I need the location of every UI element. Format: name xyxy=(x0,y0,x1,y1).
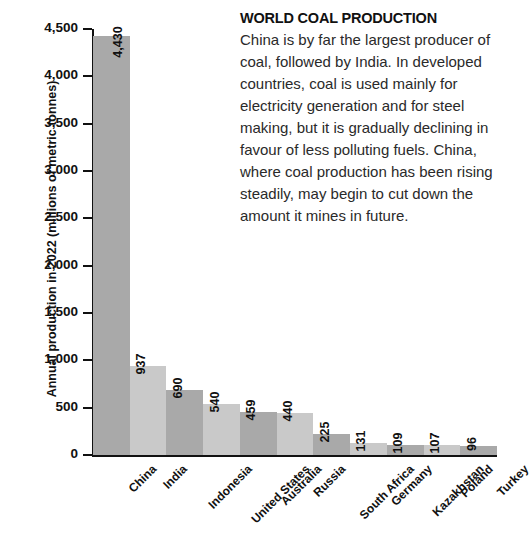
y-tick-label: 500 xyxy=(55,399,78,414)
y-tick-label: 0 xyxy=(70,446,78,461)
y-tick-mark xyxy=(83,170,92,172)
bar-indonesia[interactable]: 690 xyxy=(166,390,203,455)
bar-india[interactable]: 937 xyxy=(130,366,167,455)
y-tick-mark xyxy=(83,359,92,361)
bar-south-africa[interactable]: 225 xyxy=(313,434,350,455)
panel-body: China is by far the largest producer of … xyxy=(240,29,502,227)
y-tick-label: 2,500 xyxy=(44,209,78,224)
y-tick-mark xyxy=(83,312,92,314)
y-axis-title: Annual production in 2022 (millions of m… xyxy=(45,19,59,459)
y-tick-label: 2,000 xyxy=(44,257,78,272)
text-panel: WORLD COAL PRODUCTION China is by far th… xyxy=(240,10,502,227)
bar-value-label: 459 xyxy=(244,399,258,420)
bar-value-label: 96 xyxy=(465,437,479,451)
bar-russia[interactable]: 440 xyxy=(277,413,314,455)
x-label-china: China xyxy=(126,462,159,495)
y-tick-mark xyxy=(83,75,92,77)
y-tick-mark xyxy=(83,123,92,125)
x-label-turkey: Turkey xyxy=(494,462,531,499)
bar-china[interactable]: 4,430 xyxy=(93,36,130,455)
y-tick-label: 3,500 xyxy=(44,115,78,130)
y-tick-label: 1,500 xyxy=(44,304,78,319)
bar-poland[interactable]: 107 xyxy=(424,445,461,455)
bar-kazakhstan[interactable]: 109 xyxy=(387,445,424,455)
bar-value-label: 225 xyxy=(318,421,332,442)
y-tick-label: 1,000 xyxy=(44,351,78,366)
bar-value-label: 4,430 xyxy=(111,26,125,57)
bar-turkey[interactable]: 96 xyxy=(460,446,497,455)
y-tick-mark xyxy=(83,217,92,219)
bar-value-label: 540 xyxy=(208,391,222,412)
bar-value-label: 690 xyxy=(171,377,185,398)
x-label-indonesia: Indonesia xyxy=(206,462,256,512)
y-tick-label: 4,500 xyxy=(44,20,78,35)
y-tick-mark xyxy=(83,28,92,30)
y-tick-label: 3,000 xyxy=(44,162,78,177)
panel-title: WORLD COAL PRODUCTION xyxy=(240,10,502,26)
y-tick-mark xyxy=(83,265,92,267)
bar-united-states[interactable]: 540 xyxy=(203,404,240,455)
bar-value-label: 131 xyxy=(354,430,368,451)
y-tick-mark xyxy=(83,407,92,409)
bar-value-label: 440 xyxy=(281,401,295,422)
x-axis-line xyxy=(92,455,497,457)
bar-australia[interactable]: 459 xyxy=(240,412,277,455)
y-tick-label: 4,000 xyxy=(44,67,78,82)
bar-value-label: 109 xyxy=(391,432,405,453)
bar-germany[interactable]: 131 xyxy=(350,443,387,455)
bar-value-label: 107 xyxy=(428,432,442,453)
x-label-india: India xyxy=(161,462,191,492)
y-tick-mark xyxy=(83,454,92,456)
bar-value-label: 937 xyxy=(134,354,148,375)
